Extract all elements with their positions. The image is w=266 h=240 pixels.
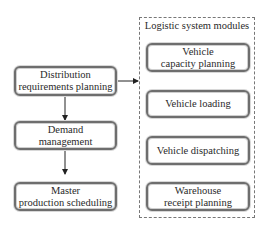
group-title: Logistic system modules — [139, 20, 255, 31]
warehouse-receipt-planning-box: Warehouse receipt planning — [146, 182, 250, 211]
distribution-requirements-planning-box: Distribution requirements planning — [14, 66, 117, 96]
vehicle-capacity-planning-box: Vehicle capacity planning — [146, 43, 250, 72]
box-label-line2: management — [39, 136, 93, 148]
box-label-line1: Vehicle dispatching — [157, 145, 240, 157]
vehicle-loading-box: Vehicle loading — [146, 90, 250, 118]
box-label-line2: receipt planning — [164, 197, 232, 209]
box-label-line1: Vehicle loading — [165, 98, 231, 110]
box-label-line1: Demand — [48, 124, 84, 136]
master-production-scheduling-box: Master production scheduling — [14, 182, 117, 211]
box-label-line2: requirements planning — [18, 81, 112, 93]
demand-management-box: Demand management — [14, 121, 117, 150]
box-label-line1: Distribution — [40, 69, 91, 81]
box-label-line2: capacity planning — [161, 58, 235, 70]
box-label-line2: production scheduling — [19, 197, 113, 209]
box-label-line1: Master — [51, 185, 80, 197]
box-label-line1: Vehicle — [182, 46, 214, 58]
box-label-line1: Warehouse — [175, 185, 221, 197]
vehicle-dispatching-box: Vehicle dispatching — [146, 136, 250, 165]
